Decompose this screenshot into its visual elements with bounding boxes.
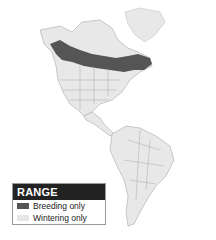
- legend-label: Wintering only: [33, 213, 87, 223]
- breeding-swatch: [17, 203, 29, 209]
- legend-label: Breeding only: [33, 201, 85, 211]
- legend-item-wintering: Wintering only: [13, 212, 105, 224]
- legend-item-breeding: Breeding only: [13, 200, 105, 212]
- south-america: [110, 126, 174, 226]
- legend: RANGE Breeding only Wintering only: [12, 183, 106, 225]
- legend-title: RANGE: [13, 184, 105, 200]
- greenland: [125, 8, 165, 42]
- central-america: [84, 112, 114, 136]
- wintering-swatch: [17, 215, 29, 221]
